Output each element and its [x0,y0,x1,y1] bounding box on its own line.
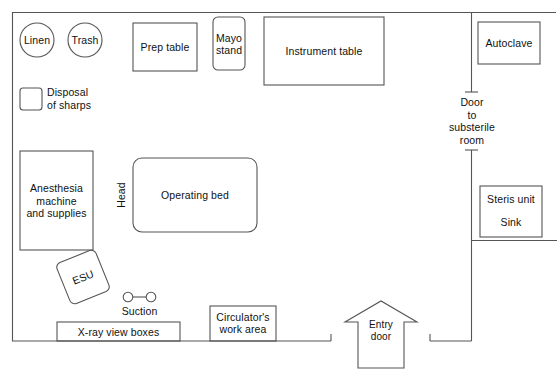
operating-bed-box [133,158,257,232]
autoclave-box [478,22,540,64]
xray-view-boxes-box [57,322,180,341]
operating-room-floor-plan: Linen Trash Disposal of sharps Prep tabl… [0,0,559,372]
steris-unit-sink-box [480,186,542,237]
substerile-partition-wall [465,12,557,341]
instrument-table-box [264,17,384,85]
mayo-stand-box [213,17,245,70]
anesthesia-machine-box [20,151,93,250]
suction-outlets [123,292,156,302]
trash-receptacle [68,23,102,57]
entry-door-arrow [345,301,417,368]
prep-table-box [133,23,197,71]
esu-box [55,249,110,306]
disposal-of-sharps-box [20,88,42,110]
room-walls [12,12,556,341]
linen-receptacle [20,23,54,57]
floor-plan-drawing [0,0,559,372]
circulator-work-area-box [210,306,276,341]
